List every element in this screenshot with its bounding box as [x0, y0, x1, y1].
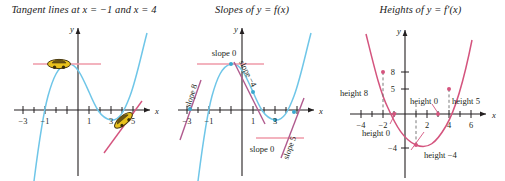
x-tick-label: 4: [447, 121, 452, 130]
panel-tangent-lines: Tangent lines at x = −1 and x = 4: [0, 0, 168, 181]
x-tick-label: 3: [109, 117, 113, 126]
panel-2-plot: slope 0 slope 8 slope −4 slope 0 slope 5…: [168, 0, 336, 181]
y-axis-label: y: [69, 24, 74, 34]
x-axis-arrow: [308, 108, 314, 113]
x-tick-label: −4: [357, 121, 367, 130]
x-tick-label: −2: [379, 121, 388, 130]
x-tick-label: 1: [87, 117, 91, 126]
car-icon: [48, 59, 71, 69]
x-tick-label: 6: [469, 121, 473, 130]
x-tick-label: 3: [273, 117, 277, 126]
tangent-line-at-4: [104, 101, 142, 153]
height-label-0-mid: height 0: [410, 96, 438, 106]
panel-slopes: Slopes of y = f(x): [168, 0, 336, 181]
y-axis-label: y: [233, 24, 238, 34]
slope-label-5: slope 5: [281, 135, 298, 161]
height-label-5: height 5: [452, 96, 480, 106]
y-tick-label: 8: [391, 68, 395, 77]
curve-f: [34, 33, 147, 181]
x-tick-label: −1: [205, 117, 214, 126]
height-guides: [383, 72, 449, 145]
panel-heights: Heights of y = f′(x): [336, 0, 505, 181]
x-tick-label: −3: [19, 117, 28, 126]
y-tick-label: −4: [388, 144, 398, 153]
panel-1-plot: −3 −1 1 3 5 x y: [0, 0, 168, 181]
height-label-neg4: height −4: [424, 150, 457, 160]
x-tick-label: 1: [251, 117, 255, 126]
x-tick-label: 5: [131, 117, 135, 126]
y-axis-arrow: [76, 28, 81, 34]
x-axis-arrow: [144, 108, 150, 113]
slope-label-8: slope 8: [183, 83, 199, 109]
y-axis-arrow: [240, 28, 245, 34]
figure-container: Tangent lines at x = −1 and x = 4: [0, 0, 505, 181]
x-tick-label: −1: [41, 117, 50, 126]
x-axis-label: x: [154, 106, 159, 116]
panel-3-plot: height 8 height 0 height −4 height 0 hei…: [336, 0, 505, 181]
y-axis-label: y: [396, 26, 401, 36]
x-axis-label: x: [491, 110, 496, 120]
slope-label-0-bottom: slope 0: [250, 144, 275, 154]
x-axis-label: x: [318, 106, 323, 116]
y-tick-label: 5: [391, 85, 395, 94]
x-tick-label: −3: [183, 117, 192, 126]
x-axis-arrow: [480, 112, 486, 117]
y-axis-arrow: [403, 30, 408, 36]
slope-label-0-top: slope 0: [212, 48, 237, 58]
height-label-8: height 8: [340, 88, 368, 98]
x-tick-label: 2: [425, 121, 429, 130]
